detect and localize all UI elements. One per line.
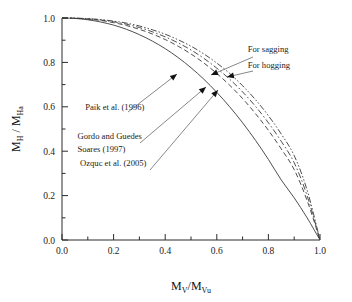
chart-figure: 0.00.20.40.60.81.00.00.20.40.60.81.0 For… <box>0 0 352 302</box>
chart-svg: 0.00.20.40.60.81.00.00.20.40.60.81.0 For… <box>0 0 352 302</box>
x-tick-label: 0.8 <box>262 246 274 256</box>
x-tick-label: 0.6 <box>211 246 223 256</box>
annotation-for-hogging: For hogging <box>248 60 291 70</box>
x-tick-label: 0.4 <box>159 246 171 256</box>
annotation-for-sagging: For sagging <box>248 44 290 54</box>
x-tick-label: 1.0 <box>314 246 326 256</box>
y-tick-label: 0.2 <box>43 191 55 201</box>
y-tick-label: 0.6 <box>43 102 55 112</box>
y-tick-label: 1.0 <box>43 14 55 24</box>
x-tick-label: 0.0 <box>56 246 68 256</box>
y-tick-label: 0.0 <box>43 236 55 246</box>
annotation-paik: Paik et al. (1996) <box>85 102 144 112</box>
annotation-gordo-2: Soares (1997) <box>77 144 125 154</box>
y-tick-label: 0.8 <box>43 58 55 68</box>
y-tick-label: 0.4 <box>43 147 55 157</box>
x-tick-label: 0.2 <box>108 246 120 256</box>
annotation-gordo-1: Gordo and Guedes <box>77 131 142 141</box>
annotation-ozquc: Ozquc et al. (2005) <box>80 158 146 168</box>
